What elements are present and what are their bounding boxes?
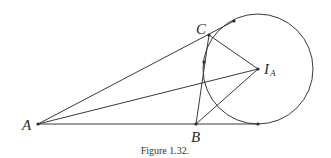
- point-c: [207, 33, 210, 36]
- label-c: C: [196, 21, 207, 37]
- segment-bc: [196, 35, 209, 124]
- tangent-point-bc: [202, 60, 205, 63]
- label-ia-subscript: A: [269, 68, 276, 78]
- point-b: [194, 122, 197, 125]
- label-a: A: [21, 117, 32, 133]
- point-ia: [256, 67, 259, 70]
- label-b: B: [191, 129, 200, 145]
- excircle-diagram: A B C I A Figure 1.32.: [0, 0, 331, 158]
- tangent-point-bottom: [256, 122, 259, 125]
- line-a-ia: [38, 69, 258, 124]
- label-ia: I: [263, 61, 270, 77]
- figure-caption: Figure 1.32.: [141, 145, 190, 156]
- tangent-point-top: [232, 19, 235, 22]
- point-a: [36, 122, 39, 125]
- segment-c-ia: [209, 35, 258, 69]
